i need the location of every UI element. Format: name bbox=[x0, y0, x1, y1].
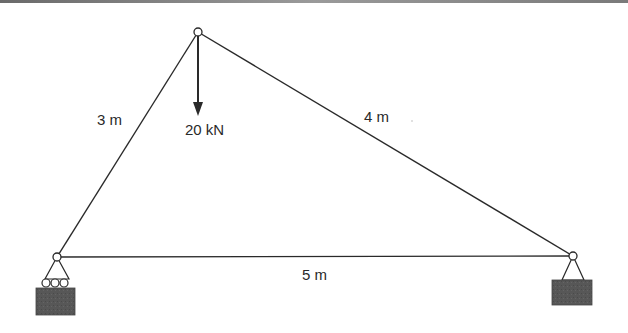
speck bbox=[411, 120, 413, 122]
roller-support-icon bbox=[36, 257, 75, 315]
member-right bbox=[198, 32, 573, 256]
member-left-label: 3 m bbox=[97, 111, 122, 128]
load-arrow-icon bbox=[193, 36, 203, 116]
member-bottom-label: 5 m bbox=[302, 266, 327, 283]
member-right-label: 4 m bbox=[364, 108, 389, 125]
member-bottom bbox=[57, 256, 573, 257]
node-left bbox=[53, 253, 61, 261]
member-left bbox=[57, 32, 198, 257]
node-right bbox=[569, 252, 577, 260]
load-label: 20 kN bbox=[185, 121, 224, 138]
pin-support-icon bbox=[552, 256, 592, 305]
truss-diagram: 3 m 20 kN 4 m 5 m bbox=[0, 0, 628, 333]
node-top bbox=[194, 28, 202, 36]
